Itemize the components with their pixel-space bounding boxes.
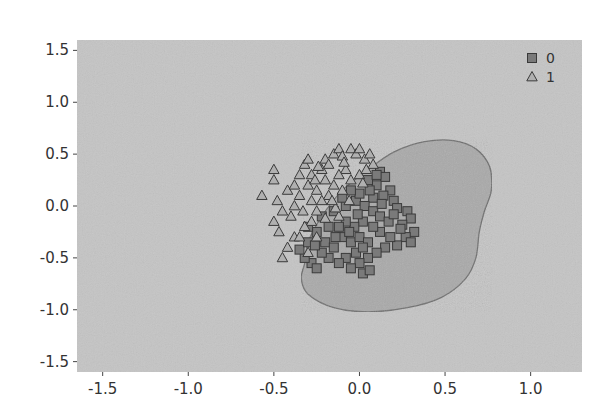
square-point — [381, 243, 390, 252]
square-point — [346, 264, 355, 273]
square-point — [389, 210, 398, 219]
square-point — [321, 238, 330, 247]
y-tick-label: -0.5 — [40, 249, 69, 267]
x-tick-label: -0.5 — [259, 380, 288, 398]
square-point — [364, 253, 373, 262]
square-point — [369, 222, 378, 231]
square-point — [355, 189, 364, 198]
square-point — [358, 243, 367, 252]
square-point — [345, 227, 354, 236]
square-point — [372, 170, 381, 179]
square-point — [310, 241, 319, 250]
y-tick-label: 0.0 — [45, 197, 69, 215]
square-point — [393, 241, 402, 250]
x-axis: -1.5-1.0-0.50.00.51.0 — [88, 372, 543, 398]
x-tick-label: 1.0 — [519, 380, 543, 398]
legend-square-marker-icon — [528, 54, 537, 63]
square-point — [365, 266, 374, 275]
y-tick-label: 1.5 — [45, 41, 69, 59]
square-point — [324, 222, 333, 231]
square-point — [376, 212, 385, 221]
y-axis: 1.51.00.50.0-0.5-1.0-1.5 — [40, 41, 77, 370]
square-point — [355, 233, 364, 242]
square-point — [379, 191, 388, 200]
x-tick-label: -1.0 — [174, 380, 203, 398]
square-point — [346, 238, 355, 247]
square-point — [410, 227, 419, 236]
scatter-chart: -1.5-1.0-0.50.00.51.0 1.51.00.50.0-0.5-1… — [0, 0, 608, 419]
y-tick-label: -1.0 — [40, 301, 69, 319]
y-tick-label: 1.0 — [45, 93, 69, 111]
square-point — [406, 238, 415, 247]
square-point — [406, 214, 415, 223]
y-tick-label: -1.5 — [40, 353, 69, 371]
square-point — [295, 245, 304, 254]
x-tick-label: -1.5 — [88, 380, 117, 398]
square-point — [334, 259, 343, 268]
square-point — [346, 186, 355, 195]
square-point — [331, 233, 340, 242]
plot-area — [77, 40, 582, 372]
square-point — [329, 243, 338, 252]
legend-label-0: 0 — [546, 50, 555, 66]
square-point — [377, 199, 386, 208]
square-point — [360, 202, 369, 211]
square-point — [396, 224, 405, 233]
square-point — [312, 264, 321, 273]
x-tick-label: 0.5 — [433, 380, 457, 398]
square-point — [353, 210, 362, 219]
square-point — [355, 259, 364, 268]
square-point — [381, 172, 390, 181]
legend-label-1: 1 — [546, 69, 555, 85]
x-tick-label: 0.0 — [348, 380, 372, 398]
square-point — [386, 233, 395, 242]
y-tick-label: 0.5 — [45, 145, 69, 163]
square-point — [372, 248, 381, 257]
square-point — [334, 222, 343, 231]
